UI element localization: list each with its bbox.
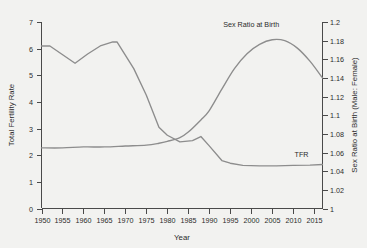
x-tick-label: 2005 <box>265 216 281 225</box>
y-tick-label-left: 2 <box>29 151 33 160</box>
x-tick-label: 1965 <box>97 216 113 225</box>
x-tick-label: 1970 <box>118 216 134 225</box>
y-tick-label-right: 1.2 <box>330 18 340 27</box>
y-axis-title-left: Total Fertility Rate <box>7 84 16 146</box>
y-tick-label-right: 1.12 <box>330 93 344 102</box>
x-tick-label: 2015 <box>307 216 323 225</box>
x-tick-label: 1955 <box>55 216 71 225</box>
x-tick-label: 1980 <box>160 216 176 225</box>
y-tick-label-left: 6 <box>29 45 33 54</box>
y-axis-title-right: Sex Ratio at Birth (Male: Female) <box>350 57 359 173</box>
x-tick-label: 1975 <box>139 216 155 225</box>
x-tick-label: 1950 <box>35 216 51 225</box>
chart-figure: 01234567 11.021.041.061.081.11.121.141.1… <box>0 0 367 248</box>
y-tick-label-left: 3 <box>29 125 33 134</box>
x-tick-label: 2010 <box>286 216 302 225</box>
y-tick-label-right: 1.16 <box>330 55 344 64</box>
y-tick-label-right: 1.04 <box>330 167 344 176</box>
series-label-sex-ratio-at-birth: Sex Ratio at Birth <box>223 20 279 29</box>
x-tick-label: 1960 <box>76 216 92 225</box>
y-tick-label-right: 1 <box>330 205 334 214</box>
x-tick-label: 1985 <box>181 216 197 225</box>
y-tick-label-right: 1.14 <box>330 74 344 83</box>
y-tick-label-left: 7 <box>29 18 33 27</box>
y-tick-label-right: 1.08 <box>330 130 344 139</box>
chart-plot-area: 01234567 11.021.041.061.081.11.121.141.1… <box>0 0 367 248</box>
x-tick-label: 1995 <box>223 216 239 225</box>
x-axis-title: Year <box>174 233 190 242</box>
series-label-tfr: TFR <box>295 150 309 159</box>
y-tick-label-left: 0 <box>29 205 33 214</box>
y-tick-label-left: 4 <box>29 98 33 107</box>
y-tick-label-right: 1.02 <box>330 186 344 195</box>
y-tick-label-left: 5 <box>29 71 33 80</box>
y-tick-label-right: 1.06 <box>330 149 344 158</box>
x-tick-label: 2000 <box>244 216 260 225</box>
y-tick-label-left: 1 <box>29 178 33 187</box>
chart-background <box>0 0 367 248</box>
y-tick-label-right: 1.1 <box>330 111 340 120</box>
y-tick-label-right: 1.18 <box>330 37 344 46</box>
x-tick-label: 1990 <box>202 216 218 225</box>
